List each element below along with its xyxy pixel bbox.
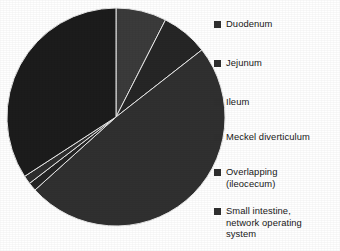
- pie-slice-group: [7, 8, 225, 226]
- legend-swatch-icon: [214, 60, 221, 67]
- legend-label: Meckel diverticulum: [226, 131, 310, 143]
- pie-chart-svg: [0, 0, 232, 251]
- legend-item-duodenum[interactable]: Duodenum: [214, 18, 273, 30]
- pie-chart-plot-area: [0, 0, 232, 251]
- legend-label: Overlapping (ileocecum): [226, 166, 277, 189]
- legend-item-meckel-diverticulum[interactable]: Meckel diverticulum: [214, 131, 310, 143]
- legend-item-jejunum[interactable]: Jejunum: [214, 57, 262, 69]
- legend-label: Small intestine, network operating syste…: [226, 205, 302, 240]
- chart-legend: Duodenum Jejunum Ileum Meckel diverticul…: [214, 0, 340, 251]
- legend-swatch-icon: [214, 169, 221, 176]
- legend-item-small-intestine-network-operating-system[interactable]: Small intestine, network operating syste…: [214, 205, 302, 240]
- legend-swatch-icon: [214, 21, 221, 28]
- legend-swatch-icon: [214, 134, 221, 141]
- pie-chart-figure: Duodenum Jejunum Ileum Meckel diverticul…: [0, 0, 340, 251]
- legend-item-overlapping-ileocecum[interactable]: Overlapping (ileocecum): [214, 166, 277, 189]
- legend-label: Jejunum: [226, 57, 262, 69]
- legend-item-ileum[interactable]: Ileum: [214, 96, 249, 108]
- legend-label: Ileum: [226, 96, 249, 108]
- legend-swatch-icon: [214, 99, 221, 106]
- legend-label: Duodenum: [226, 18, 273, 30]
- legend-swatch-icon: [214, 208, 221, 215]
